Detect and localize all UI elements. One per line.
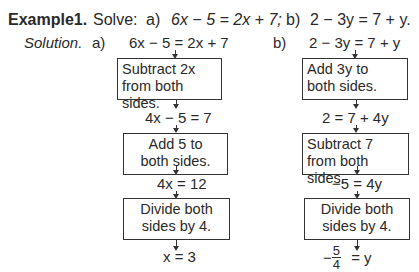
example-label: Example1. [8,12,87,28]
step-text: Add 5 to [128,136,223,153]
step-box-a3: Divide both sides by 4. [123,198,230,240]
part-b-start-equation: 2 − 3y = 7 + y [309,35,400,50]
result-a2: 4x = 12 [157,176,207,191]
step-text: both sides. [307,78,403,95]
result-b3: −54 = y [323,244,372,271]
step-text: from both sides. [122,78,217,112]
negative-sign: − [323,249,332,266]
result-b2: −5 = 4y [332,176,382,191]
result-a1: 4x − 5 = 7 [145,110,212,125]
solution-label: Solution. [24,35,82,50]
step-box-b3: Divide both sides by 4. [304,198,410,240]
part-a-equation: 6x − 5 = 2x + 7; [171,12,282,28]
result-a3: x = 3 [163,249,196,264]
step-text: sides by 4. [128,218,225,235]
part-a-start-equation: 6x − 5 = 2x + 7 [129,35,229,50]
step-box-b1: Add 3y to both sides. [302,58,408,100]
step-box-b2: Subtract 7 from both sides. [302,133,409,175]
part-a-label: a) [146,12,160,28]
solution-b-label: b) [273,35,286,50]
solve-prompt: Solve: [93,12,137,28]
fraction: 54 [332,244,341,271]
step-text: Subtract 7 [307,136,404,153]
step-box-a1: Subtract 2x from both sides. [117,58,222,100]
result-rhs: = y [351,249,371,266]
numerator: 5 [332,244,341,258]
step-text: Divide both [128,201,225,218]
solution-a-label: a) [92,35,105,50]
denominator: 4 [332,258,341,271]
step-text: Divide both [309,201,405,218]
step-text: Add 3y to [307,61,403,78]
part-b-label: b) [286,12,300,28]
part-b-equation: 2 − 3y = 7 + y. [310,12,411,28]
result-b1: 2 = 7 + 4y [322,110,389,125]
step-text: Subtract 2x [122,61,217,78]
step-text: sides by 4. [309,218,405,235]
